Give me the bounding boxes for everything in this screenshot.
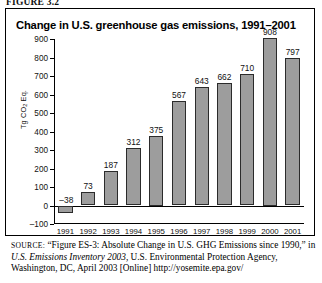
bar[interactable] xyxy=(81,192,95,206)
y-axis-tick-label: –100 xyxy=(30,220,48,229)
y-axis-tick xyxy=(50,150,54,151)
bar[interactable] xyxy=(285,58,299,205)
bar-value-label: 908 xyxy=(263,27,277,37)
figure-panel: Change in U.S. greenhouse gas emissions,… xyxy=(5,8,315,236)
bar[interactable] xyxy=(217,83,231,205)
x-axis-tick-label: 1996 xyxy=(170,227,187,236)
bar[interactable] xyxy=(149,136,163,205)
bar[interactable] xyxy=(172,101,186,206)
figure-page: FIGURE 3.2 Change in U.S. greenhouse gas… xyxy=(0,0,322,283)
y-axis-tick xyxy=(50,113,54,114)
y-axis-tick xyxy=(50,76,54,77)
y-axis-tick-label: 400 xyxy=(34,127,48,136)
y-axis-tick-label: 200 xyxy=(34,164,48,173)
bar-value-label: 643 xyxy=(195,76,209,86)
x-axis-tick-label: 1991 xyxy=(57,227,74,236)
plot-area: 9008007006005004003002001000–100–3819917… xyxy=(54,39,304,224)
x-axis-tick-label: 1993 xyxy=(102,227,119,236)
bar[interactable] xyxy=(104,171,118,206)
y-axis-tick-label: 700 xyxy=(34,72,48,81)
x-axis-tick-label: 1992 xyxy=(79,227,96,236)
x-axis-tick-label: 2000 xyxy=(261,227,278,236)
x-axis-tick-label: 1995 xyxy=(148,227,165,236)
chart-plot-wrapper: Tg CO2 Eq. 9008007006005004003002001000–… xyxy=(6,9,315,236)
bar-value-label: –38 xyxy=(59,195,73,205)
bar-value-label: 73 xyxy=(83,181,92,191)
bar[interactable] xyxy=(263,38,277,206)
bar[interactable] xyxy=(195,87,209,206)
y-axis-tick xyxy=(50,224,54,225)
y-axis-tick xyxy=(50,187,54,188)
x-axis-tick-label: 2001 xyxy=(284,227,301,236)
source-prefix: SOURCE: xyxy=(11,241,45,250)
bar-value-label: 567 xyxy=(172,90,186,100)
bar[interactable] xyxy=(240,74,254,205)
y-axis-title: Tg CO2 Eq. xyxy=(19,75,28,145)
y-axis-title-tail: Eq. xyxy=(19,90,28,104)
bar-value-label: 797 xyxy=(286,47,300,57)
bar[interactable] xyxy=(58,206,72,213)
y-axis-tick-label: 500 xyxy=(34,109,48,118)
y-axis-tick-label: 900 xyxy=(34,35,48,44)
zero-baseline xyxy=(54,206,304,207)
x-axis-tick-label: 1999 xyxy=(238,227,255,236)
y-axis-tick xyxy=(50,169,54,170)
y-axis-tick xyxy=(50,58,54,59)
y-axis-line xyxy=(54,39,55,224)
y-axis-tick-label: 0 xyxy=(43,201,48,210)
x-axis-tick-label: 1994 xyxy=(125,227,142,236)
source-text-part1: “Figure ES-3: Absolute Change in U.S. GH… xyxy=(45,240,315,250)
x-axis-tick-label: 1998 xyxy=(216,227,233,236)
bar-value-label: 187 xyxy=(104,160,118,170)
y-axis-tick-label: 600 xyxy=(34,90,48,99)
y-axis-tick-label: 800 xyxy=(34,53,48,62)
bar-value-label: 312 xyxy=(127,137,141,147)
y-axis-tick-label: 300 xyxy=(34,146,48,155)
x-axis-tick-label: 1997 xyxy=(193,227,210,236)
figure-number-label: FIGURE 3.2 xyxy=(6,0,59,7)
source-title-italic: U.S. Emissions Inventory 2003, xyxy=(11,252,128,262)
x-axis-line xyxy=(54,223,304,224)
y-axis-tick xyxy=(50,39,54,40)
y-axis-title-main: Tg CO xyxy=(19,107,28,129)
y-axis-tick-label: 100 xyxy=(34,183,48,192)
bar-value-label: 375 xyxy=(149,125,163,135)
y-axis-title-subscript: 2 xyxy=(22,104,28,107)
bar-value-label: 710 xyxy=(240,63,254,73)
bar-value-label: 662 xyxy=(217,72,231,82)
y-axis-tick xyxy=(50,95,54,96)
source-note: SOURCE: “Figure ES-3: Absolute Change in… xyxy=(11,240,316,275)
bar[interactable] xyxy=(126,148,140,206)
y-axis-tick xyxy=(50,132,54,133)
